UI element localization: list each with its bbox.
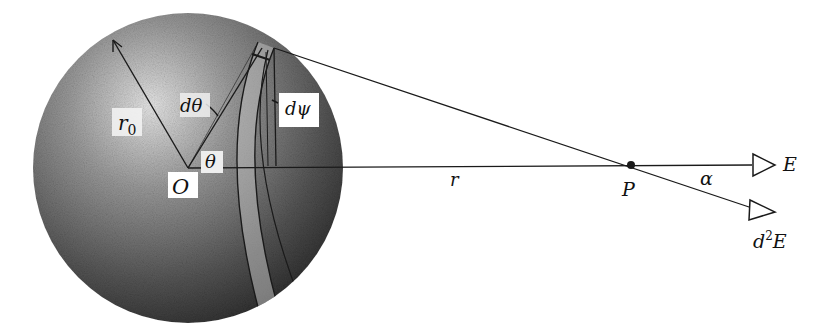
sphere-field-diagram: r0 O θ dθ dψ r P α E d2E	[0, 0, 834, 335]
label-r: r	[450, 169, 460, 190]
ray-line	[274, 48, 752, 208]
label-d-theta: dθ	[180, 95, 203, 116]
label-o: O	[172, 175, 189, 199]
label-d-psi: dψ	[285, 98, 312, 119]
d2e-arrowhead-icon	[749, 200, 775, 220]
label-e: E	[782, 153, 797, 175]
e-arrowhead-icon	[753, 154, 775, 176]
point-p-dot	[627, 161, 635, 169]
label-p: P	[621, 178, 636, 200]
label-theta: θ	[205, 151, 216, 172]
label-alpha: α	[700, 167, 713, 189]
label-d2e: d2E	[753, 229, 787, 252]
